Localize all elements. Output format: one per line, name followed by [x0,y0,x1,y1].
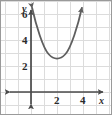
x-axis-label: x [99,96,104,106]
y-tick-label-2: 2 [22,61,28,72]
y-tick-label-4: 4 [22,35,28,46]
x-tick-label-2: 2 [54,95,60,106]
graph-figure: y 6 4 2 2 4 x [0,0,112,115]
x-tick-label-4: 4 [80,95,86,106]
y-tick-label-6: 6 [22,9,28,20]
